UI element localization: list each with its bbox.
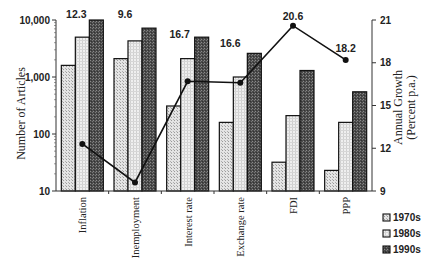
right-axis-title-line2: (Percent p.a.): [404, 75, 418, 139]
legend-swatch: [383, 230, 390, 237]
left-tick-label: 1,000: [25, 72, 50, 83]
right-tick-label: 9: [380, 186, 386, 197]
legend: 1970s1980s1990s: [383, 212, 421, 255]
bar-1990s: [300, 71, 314, 191]
growth-point: [343, 57, 349, 63]
category-label: Interest rate: [183, 197, 194, 247]
growth-point: [237, 80, 243, 86]
growth-annotation: 18.2: [335, 42, 356, 54]
x-axis: InflationInemploymentInterest rateExchan…: [56, 191, 372, 258]
left-axis-title: Number of Articles: [14, 67, 28, 160]
bar-group-interest-rate: [167, 37, 209, 191]
bar-1970s: [61, 65, 75, 191]
growth-point: [185, 78, 191, 84]
bar-group-fdi: [272, 71, 314, 191]
growth-point: [79, 141, 85, 147]
legend-item-1980s: 1980s: [383, 228, 421, 239]
right-tick-label: 18: [380, 57, 392, 68]
legend-label: 1970s: [393, 212, 421, 223]
bar-1980s: [339, 122, 353, 191]
category-label: Inemployment: [130, 197, 141, 258]
legend-item-1970s: 1970s: [383, 212, 421, 223]
chart: 101001,00010,000 912151821 12.39.616.716…: [0, 0, 434, 273]
bar-1970s: [325, 170, 339, 191]
right-axis-title-line1: Annual Growth: [391, 70, 405, 145]
legend-item-1990s: 1990s: [383, 244, 421, 255]
growth-annotation: 16.7: [169, 28, 190, 40]
left-tick-label: 10,000: [19, 15, 50, 26]
bar-1970s: [272, 162, 286, 191]
growth-point: [132, 179, 138, 185]
growth-annotation: 20.6: [283, 10, 304, 22]
category-label: Inflation: [77, 196, 88, 233]
right-tick-label: 12: [380, 143, 392, 154]
left-tick-label: 10: [39, 186, 51, 197]
growth-annotation: 9.6: [118, 8, 133, 20]
growth-annotation: 16.6: [220, 37, 241, 49]
legend-label: 1980s: [393, 228, 421, 239]
bar-1990s: [89, 20, 103, 191]
growth-point: [290, 23, 296, 29]
bar-1970s: [114, 59, 128, 191]
bar-group-unemployment: [114, 28, 156, 191]
category-label: Exchange rate: [235, 197, 246, 257]
legend-swatch: [383, 246, 390, 253]
bar-1990s: [195, 37, 209, 191]
bar-group-ppp: [325, 92, 367, 191]
bar-1980s: [75, 37, 89, 191]
legend-label: 1990s: [393, 244, 421, 255]
bar-1970s: [219, 122, 233, 191]
bar-1980s: [286, 116, 300, 191]
right-y-axis: 912151821: [372, 15, 392, 197]
growth-annotation: 12.3: [66, 8, 87, 20]
bar-1990s: [353, 92, 367, 191]
category-label: FDI: [288, 196, 299, 213]
right-tick-label: 21: [380, 15, 392, 26]
bar-1980s: [128, 41, 142, 191]
bar-1980s: [233, 77, 247, 191]
left-tick-label: 100: [33, 129, 50, 140]
bar-series: [61, 20, 366, 191]
category-label: PPP: [341, 197, 352, 215]
bar-group-inflation: [61, 20, 103, 191]
right-tick-label: 15: [380, 100, 392, 111]
bar-group-exchange-rate: [219, 53, 261, 191]
legend-swatch: [383, 214, 390, 221]
